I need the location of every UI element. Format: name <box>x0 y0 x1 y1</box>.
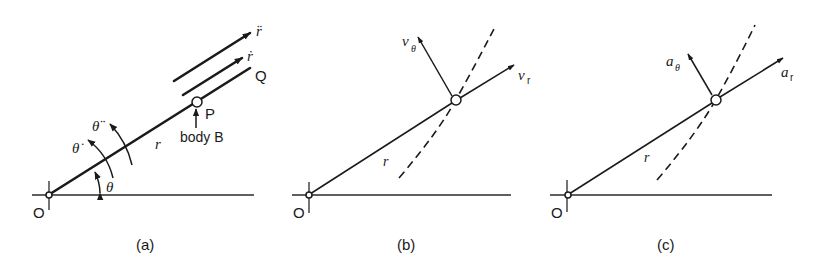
panel-b-caption: (b) <box>397 236 415 253</box>
point-p-label: P <box>205 105 215 122</box>
theta-dot-label: θ̇ <box>72 140 84 156</box>
v-r-main: v <box>518 67 525 83</box>
radial-line <box>569 103 712 194</box>
r-dot-arrow <box>183 58 242 95</box>
panel-c-caption: (c) <box>657 236 675 253</box>
a-r-main: a <box>781 64 789 80</box>
a-theta-label: a θ <box>666 53 680 73</box>
v-theta-arrow <box>418 37 452 96</box>
panel-a: O P Q body B r r̈ ṙ θ θ̇ θ̈ (a) <box>32 23 267 253</box>
v-r-subscript: r <box>527 75 531 86</box>
origin-label: O <box>551 204 563 221</box>
panel-a-caption: (a) <box>136 236 154 253</box>
particle-point <box>711 95 721 105</box>
theta-dot-arc <box>88 140 113 178</box>
point-p <box>192 97 202 107</box>
a-theta-arrow <box>688 54 712 95</box>
origin-label: O <box>293 204 305 221</box>
r-dot-label: ṙ <box>247 48 253 64</box>
a-r-subscript: r <box>790 72 794 83</box>
origin-point <box>306 192 312 198</box>
a-r-label: a r <box>781 64 794 83</box>
v-theta-subscript: θ <box>411 43 416 54</box>
a-r-arrow <box>720 58 783 97</box>
a-theta-subscript: θ <box>675 62 680 73</box>
v-r-label: v r <box>518 67 531 86</box>
v-theta-main: v <box>402 33 409 49</box>
radius-label: r <box>644 150 650 165</box>
polar-coordinates-figure: O P Q body B r r̈ ṙ θ θ̇ θ̈ (a) O r v θ … <box>0 0 818 273</box>
theta-angle-arc <box>95 172 100 193</box>
origin-point <box>46 192 52 198</box>
a-theta-main: a <box>666 53 674 69</box>
radial-line <box>310 103 452 194</box>
r-ddot-label: r̈ <box>256 23 262 39</box>
origin-label: O <box>33 204 45 221</box>
v-theta-label: v θ <box>402 33 416 54</box>
v-r-arrow <box>460 65 514 98</box>
particle-point <box>451 95 461 105</box>
point-q-label: Q <box>255 67 267 84</box>
origin-point <box>565 192 571 198</box>
panel-c: O r a θ a r (c) <box>550 25 794 253</box>
body-label: body B <box>180 129 224 145</box>
trajectory-dashed-curve <box>657 25 755 180</box>
theta-label: θ <box>106 179 114 195</box>
radius-label: r <box>155 136 161 152</box>
panel-b: O r v θ v r (b) <box>292 25 531 253</box>
theta-ddot-label: θ̈ <box>92 118 105 134</box>
radius-label: r <box>383 154 389 169</box>
